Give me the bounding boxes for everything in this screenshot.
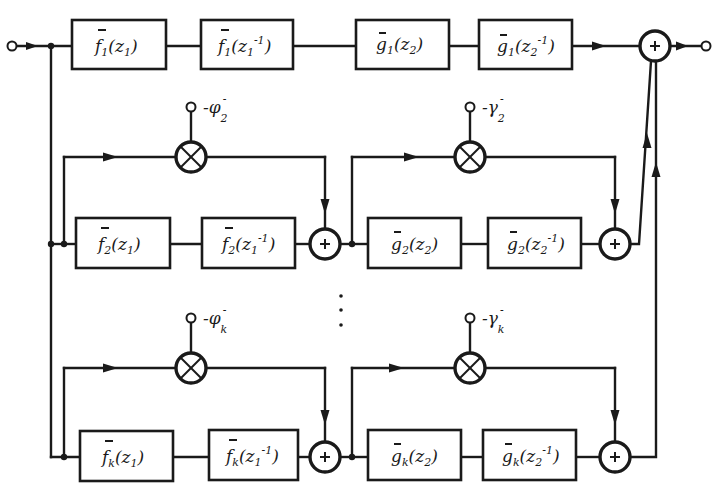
block-g2-z2-inv: g2(z2-1)	[488, 218, 581, 268]
coef-port-gamma-k	[466, 314, 475, 323]
svg-text:f1(z1): f1(z1)	[93, 36, 138, 59]
arrow-up-icon	[652, 162, 661, 177]
coef-label-phi-2: -φ-2	[203, 93, 227, 125]
block-f1-z1-inv: f1(z1-1)	[201, 20, 293, 69]
svg-text:gk(z2): gk(z2)	[391, 446, 438, 469]
block-g1-z2-inv: g1(z2-1)	[479, 20, 572, 69]
adder-g-2	[600, 229, 630, 259]
svg-text:f2(z1): f2(z1)	[96, 234, 141, 257]
block-f1-z1: f1(z1)	[72, 20, 166, 69]
arrow-down-icon	[611, 199, 620, 214]
block-diagram: f1(z1) f1(z1-1) g1(z2) g1(z2-1)	[0, 0, 724, 493]
multiplier-gamma-k	[455, 353, 485, 383]
coef-port-gamma-2	[466, 103, 475, 112]
output-port	[702, 42, 711, 51]
block-g2-z2: g2(z2)	[368, 218, 461, 268]
arrow-right-icon	[389, 364, 404, 373]
block-g1-z2: g1(z2)	[356, 20, 449, 69]
arrow-up-icon	[643, 133, 652, 148]
coef-port-phi-k	[187, 314, 196, 323]
svg-text:g1(z2): g1(z2)	[376, 34, 423, 57]
row-k: -φ-k -γ-k fk(z1) fk(z1-1)	[80, 304, 630, 481]
block-f2-z1-inv: f2(z1-1)	[202, 218, 295, 268]
arrow-down-icon	[321, 199, 330, 214]
arrow-right-icon	[103, 364, 118, 373]
block-fk-z1: fk(z1)	[80, 431, 173, 481]
row-1: f1(z1) f1(z1-1) g1(z2) g1(z2-1)	[72, 20, 572, 69]
arrow-right-icon	[592, 42, 606, 51]
block-fk-z1-inv: fk(z1-1)	[209, 430, 298, 480]
coef-label-phi-k: -φ-k	[203, 304, 227, 336]
multiplier-gamma-2	[455, 142, 485, 172]
arrow-right-icon	[404, 153, 419, 162]
svg-text:fk(z1): fk(z1)	[100, 447, 144, 470]
multiplier-phi-k	[176, 353, 206, 383]
input-port	[8, 42, 17, 51]
coef-port-phi-2	[187, 103, 196, 112]
multiplier-phi-2	[176, 142, 206, 172]
block-gk-z2-inv: gk(z2-1)	[483, 430, 576, 480]
arrow-down-icon	[321, 410, 330, 425]
block-gk-z2: gk(z2)	[368, 430, 461, 480]
adder-f-k	[310, 442, 340, 472]
coef-label-gamma-k: -γ-k	[482, 304, 505, 336]
svg-text:g2(z2): g2(z2)	[391, 234, 438, 257]
output-arrow-icon	[676, 42, 688, 51]
input-arrow-icon	[26, 42, 38, 50]
adder-g-k	[600, 442, 630, 472]
vertical-ellipsis	[339, 294, 343, 327]
output-adder	[640, 31, 670, 61]
arrow-down-icon	[611, 410, 620, 425]
block-f2-z1: f2(z1)	[76, 218, 170, 268]
arrow-right-icon	[103, 153, 118, 162]
coef-label-gamma-2: -γ-2	[482, 93, 505, 125]
adder-f-2	[310, 229, 340, 259]
